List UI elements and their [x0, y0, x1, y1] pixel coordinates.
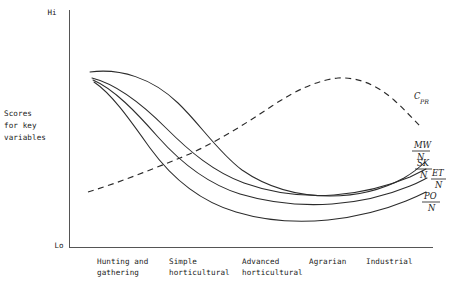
series-label-c-pr: C PR: [414, 91, 429, 105]
x-tick-label-line-2: horticultural: [169, 268, 230, 277]
series-label-po-n-numerator: PO: [423, 191, 437, 201]
x-tick-label-line-1: Advanced: [242, 257, 279, 266]
series-label-po-n: PO N: [422, 191, 440, 213]
x-axis-tick-agrarian: Agrarian: [309, 257, 346, 266]
y-axis-low-label: Lo: [54, 241, 64, 250]
chart-canvas: Hi Lo Scores for key variables C PR: [0, 0, 454, 284]
x-axis-tick-hunting-and-gathering: Hunting and gathering: [97, 257, 148, 277]
x-tick-label-line-1: Hunting and: [97, 257, 148, 266]
series-label-c-pr-denominator: PR: [419, 98, 429, 105]
x-axis-tick-advanced-horticultural: Advanced horticultural: [242, 257, 303, 277]
series-label-mw-n-numerator: MW: [413, 140, 433, 150]
x-axis-tick-simple-horticultural: Simple horticultural: [169, 257, 230, 277]
series-label-sk-n: SK N: [415, 158, 432, 180]
y-axis-high-label: Hi: [47, 8, 56, 17]
series-label-et-n-numerator: ET: [431, 168, 445, 178]
series-curve-po-n: [94, 82, 426, 221]
x-tick-label-line-1: Industrial: [366, 257, 413, 266]
x-tick-label-line-2: horticultural: [242, 268, 303, 277]
y-axis-caption-line-2: for key: [4, 121, 37, 130]
y-axis-caption-line-1: Scores: [4, 109, 32, 118]
x-axis-tick-industrial: Industrial: [366, 257, 413, 266]
chart-figure: Hi Lo Scores for key variables C PR: [0, 0, 454, 284]
series-curve-et-n: [93, 80, 427, 205]
series-label-et-n: ET N: [431, 168, 446, 190]
x-tick-label-line-2: gathering: [97, 268, 139, 277]
series-label-sk-n-denominator: N: [419, 170, 428, 180]
series-curve-c-pr: [88, 78, 420, 192]
series-label-po-n-denominator: N: [427, 203, 436, 213]
y-axis-caption: Scores for key variables: [4, 109, 46, 142]
x-tick-label-line-1: Agrarian: [309, 257, 346, 266]
x-axis-tick-labels: Hunting and gathering Simple horticultur…: [97, 257, 413, 277]
series-label-et-n-denominator: N: [434, 180, 443, 190]
series-label-sk-n-numerator: SK: [417, 158, 430, 168]
x-tick-label-line-1: Simple: [169, 257, 197, 266]
series-curves-group: [88, 71, 427, 221]
axes-group: [69, 10, 433, 248]
y-axis-caption-line-3: variables: [4, 133, 46, 142]
